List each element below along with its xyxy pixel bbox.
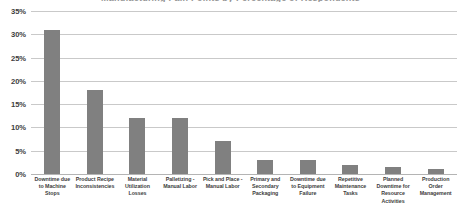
- bar: [215, 141, 231, 174]
- y-axis-tick-label: 20%: [11, 76, 26, 85]
- bar: [44, 30, 60, 174]
- axis-baseline: [31, 174, 457, 175]
- y-axis-tick-label: 5%: [15, 146, 26, 155]
- bar-series: [31, 11, 457, 174]
- y-axis-tick-label: 35%: [11, 7, 26, 16]
- bar-slot: [159, 11, 202, 174]
- y-axis-tick-label: 25%: [11, 53, 26, 62]
- bar-slot: [31, 11, 74, 174]
- bar-slot: [287, 11, 330, 174]
- x-axis-category-label: Production Order Management: [414, 176, 457, 198]
- bar: [385, 167, 401, 174]
- bar-slot: [414, 11, 457, 174]
- bar-slot: [201, 11, 244, 174]
- bar-slot: [74, 11, 117, 174]
- bar-slot: [329, 11, 372, 174]
- bar: [87, 90, 103, 174]
- y-axis-tick-label: 10%: [11, 123, 26, 132]
- y-axis-tick-label: 15%: [11, 100, 26, 109]
- bar-slot: [116, 11, 159, 174]
- x-axis-category-label: Downtime due to Machine Stops: [31, 176, 74, 198]
- x-axis-category-label: Palletizing - Manual Labor: [159, 176, 202, 190]
- x-axis-category-label: Repetitive Maintenance Tasks: [329, 176, 372, 198]
- bar-slot: [372, 11, 415, 174]
- x-axis-category-label: Material Utilization Losses: [116, 176, 159, 198]
- chart-title: Manufacturing Pain Points by Percentage …: [0, 0, 461, 2]
- bar: [428, 169, 444, 174]
- bar-slot: [244, 11, 287, 174]
- bar: [257, 160, 273, 174]
- x-axis-category-label: Pick and Place - Manual Labor: [201, 176, 244, 190]
- x-axis-category-label: Product Recipe Inconsistencies: [74, 176, 117, 190]
- x-axis-category-label: Primary and Secondary Packaging: [244, 176, 287, 198]
- x-axis-category-label: Planned Downtime for Resource Activities: [372, 176, 415, 205]
- y-axis-tick-label: 0%: [15, 170, 26, 179]
- x-axis-category-label: Downtime due to Equipment Failure: [287, 176, 330, 198]
- x-axis: Downtime due to Machine StopsProduct Rec…: [31, 176, 457, 215]
- bar: [129, 118, 145, 174]
- y-axis-tick-label: 30%: [11, 30, 26, 39]
- bar: [172, 118, 188, 174]
- bar: [342, 165, 358, 174]
- plot-area: [31, 11, 457, 174]
- bar: [300, 160, 316, 174]
- y-axis: 0%5%10%15%20%25%30%35%: [0, 0, 30, 174]
- bar-chart: Manufacturing Pain Points by Percentage …: [0, 0, 461, 215]
